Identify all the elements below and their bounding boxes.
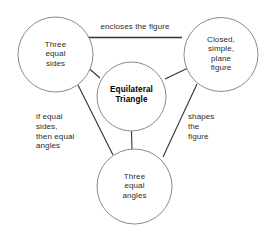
node-label-center: Equilateral Triangle	[99, 85, 164, 104]
node-label-bottom: Three equal angles	[102, 172, 167, 200]
node-label-right: Closed, simple, plane figure	[189, 35, 253, 73]
edge-line-center-to-right	[165, 68, 188, 79]
edge-label-shapes-the-figure: shapes the figure	[188, 112, 248, 141]
concept-map-diagram: Three equal sides Closed, simple, plane …	[0, 0, 270, 232]
node-label-left: Three equal sides	[23, 40, 88, 68]
edge-label-encloses-the-figure: encloses the figure	[80, 22, 190, 32]
edge-line-center-to-bottom	[132, 131, 133, 150]
edge-label-if-equal-sides-then-equal-angles: if equal sides, then equal angles	[36, 112, 98, 151]
